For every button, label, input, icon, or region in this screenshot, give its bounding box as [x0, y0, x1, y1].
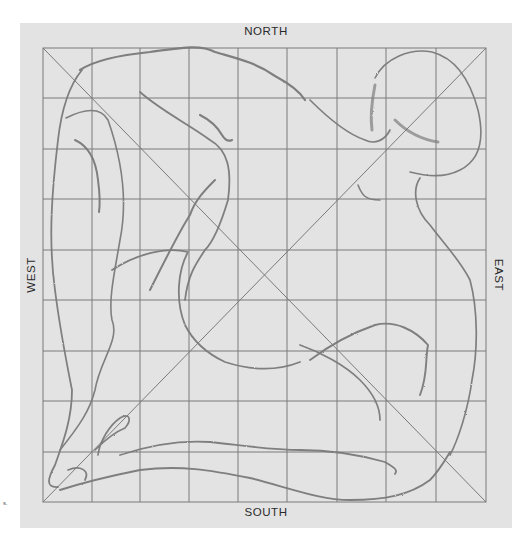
sketch-left-contour	[49, 70, 82, 487]
sketch-right-arm	[310, 324, 428, 395]
label-east: EAST	[493, 259, 505, 291]
label-south: SOUTH	[0, 506, 532, 518]
figure-mark: s.	[3, 500, 8, 506]
sketch-foot	[68, 416, 129, 480]
sketch-knee	[150, 180, 215, 290]
sketch-back-contour	[80, 47, 305, 100]
sketch-arm	[140, 92, 229, 300]
sketch-right-back	[416, 178, 477, 455]
sketch-short-stroke	[75, 140, 100, 212]
sketch-neck	[310, 100, 390, 142]
sketch-head-shading	[371, 85, 438, 142]
label-west: WEST	[25, 257, 37, 293]
figure-sketch	[49, 47, 481, 500]
grid-drawing	[0, 0, 532, 550]
sketch-right-forearm	[300, 345, 380, 420]
grid	[43, 48, 486, 502]
sketch-bottom-contour	[60, 452, 450, 500]
label-north: NORTH	[0, 25, 532, 37]
sketch-small-mark	[358, 185, 380, 200]
